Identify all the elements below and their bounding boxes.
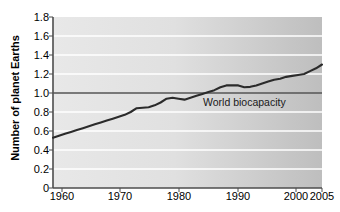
chart-figure: Number of planet Earths 1.8 1.6 1.4 1.2 … bbox=[0, 0, 340, 212]
world-biocapacity-label: World biocapacity bbox=[203, 96, 286, 108]
plot-area: World biocapacity bbox=[0, 0, 340, 212]
